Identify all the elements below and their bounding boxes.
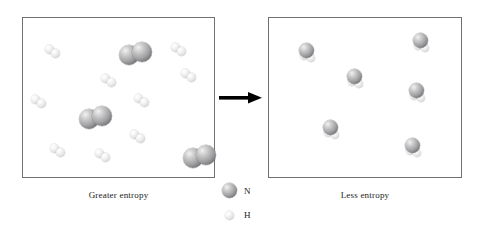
ammonia-molecule: [404, 138, 424, 158]
legend-label-hydrogen: H: [244, 210, 251, 220]
nitrogen-atom: [409, 83, 424, 98]
hydrogen-molecule: [95, 149, 112, 164]
nitrogen-molecule: [119, 42, 153, 68]
ammonia-molecule: [412, 33, 432, 53]
ammonia-molecule: [346, 69, 366, 89]
hydrogen-molecule: [181, 69, 198, 84]
right-product-panel: [268, 17, 462, 178]
hydrogen-molecule: [130, 130, 147, 145]
hydrogen-atom: [177, 47, 186, 56]
hydrogen-atom: [51, 49, 60, 58]
hydrogen-atom: [187, 73, 196, 82]
nitrogen-atom: [413, 33, 428, 48]
entropy-diagram: Greater entropy Less entropy N H: [0, 0, 482, 241]
nitrogen-molecule: [183, 145, 217, 171]
nitrogen-molecule: [79, 106, 113, 132]
left-reactant-panel: [22, 17, 215, 178]
hydrogen-molecule: [31, 95, 48, 110]
right-panel-caption: Less entropy: [268, 190, 462, 200]
ammonia-molecule: [322, 120, 342, 140]
nitrogen-atom: [347, 69, 362, 84]
left-panel-caption: Greater entropy: [22, 190, 215, 200]
nitrogen-atom: [405, 138, 420, 153]
ammonia-molecule: [298, 43, 318, 63]
reaction-arrow-icon: [219, 91, 263, 105]
hydrogen-atom: [140, 98, 149, 107]
hydrogen-atom: [37, 99, 46, 108]
hydrogen-molecule: [171, 43, 188, 58]
hydrogen-atom: [101, 153, 110, 162]
hydrogen-atom: [56, 148, 65, 157]
ammonia-molecule: [408, 83, 428, 103]
hydrogen-molecule: [45, 45, 62, 60]
nitrogen-atom: [132, 42, 152, 62]
hydrogen-molecule: [134, 94, 151, 109]
hydrogen-molecule: [101, 74, 118, 89]
hydrogen-atom: [136, 134, 145, 143]
nitrogen-atom: [299, 43, 314, 58]
hydrogen-atom-icon: [225, 211, 234, 220]
legend: N H: [222, 183, 282, 233]
nitrogen-atom: [92, 106, 112, 126]
hydrogen-atom: [107, 78, 116, 87]
legend-label-nitrogen: N: [244, 186, 251, 196]
hydrogen-molecule: [50, 144, 67, 159]
nitrogen-atom: [196, 145, 216, 165]
nitrogen-atom: [323, 120, 338, 135]
nitrogen-atom-icon: [222, 183, 237, 198]
